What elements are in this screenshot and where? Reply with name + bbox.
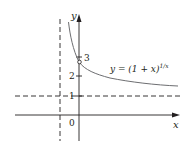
y-tick-label-3: 3 — [84, 53, 90, 63]
curve-equation-label: y = (1 + x)1/x — [109, 62, 169, 74]
y-tick-label-1: 1 — [69, 91, 75, 101]
y-tick-label-2: 2 — [69, 71, 75, 81]
equation-base: y = (1 + x) — [109, 64, 160, 74]
y-axis-label: y — [70, 10, 77, 21]
x-axis-label: x — [173, 119, 179, 130]
y-axis-arrow-icon — [77, 14, 82, 22]
x-axis-arrow-icon — [172, 113, 180, 118]
hole-marker — [78, 60, 82, 64]
graph-canvas: y x 0 1 2 3 y = (1 + x)1/x — [0, 0, 193, 151]
origin-label: 0 — [69, 118, 75, 128]
equation-exponent: 1/x — [159, 62, 169, 69]
function-graph: y x 0 1 2 3 y = (1 + x)1/x — [0, 0, 193, 151]
